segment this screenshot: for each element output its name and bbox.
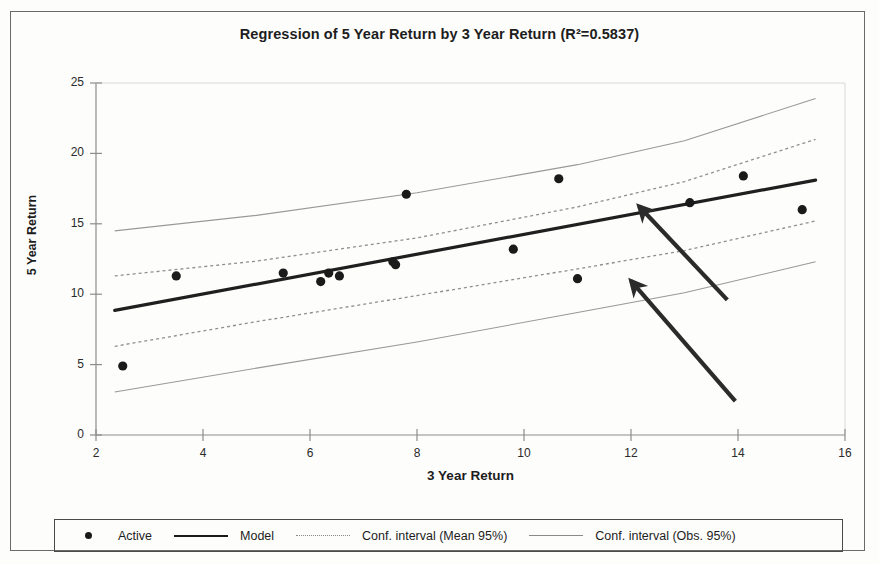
annotation-arrows [631,206,735,401]
x-tick-label-2: 2 [81,446,111,460]
data-point [324,268,333,277]
data-point [739,171,748,180]
x-tick-label-16: 16 [830,446,860,460]
solid-thin-line-icon [529,535,583,536]
legend-item-model[interactable]: Model [152,529,274,543]
y-tick-label-20: 20 [58,145,84,159]
data-point [118,361,127,370]
data-point [554,174,563,183]
chart-page: Regression of 5 Year Return by 3 Year Re… [0,0,879,564]
data-point [573,274,582,283]
y-tick-label-15: 15 [58,216,84,230]
legend-label-conf-obs: Conf. interval (Obs. 95%) [595,529,735,543]
arrow-to-mean-upper-band [639,206,727,300]
y-tick-label-5: 5 [58,357,84,371]
data-point [279,268,288,277]
axes [90,83,845,441]
x-tick-label-12: 12 [616,446,646,460]
arrow-to-obs-lower-band [631,281,735,401]
legend-label-model: Model [240,529,274,543]
data-point [335,271,344,280]
data-point [391,260,400,269]
x-tick-label-14: 14 [723,446,753,460]
data-point [172,271,181,280]
x-axis-title: 3 Year Return [96,468,845,483]
legend-label-active: Active [118,529,152,543]
y-tick-label-25: 25 [58,75,84,89]
x-tick-label-6: 6 [295,446,325,460]
data-point [509,245,518,254]
model-regression-line [115,180,816,310]
dot-marker-icon [85,532,92,539]
chart-legend: Active Model Conf. interval (Mean 95%) C… [54,519,843,552]
legend-item-conf-mean[interactable]: Conf. interval (Mean 95%) [274,529,507,543]
dotted-line-icon [296,535,350,536]
legend-item-conf-obs[interactable]: Conf. interval (Obs. 95%) [507,529,735,543]
obs-ci-upper-line [115,98,816,230]
model-line [115,180,816,310]
y-axis-title: 5 Year Return [25,175,39,295]
data-point [316,277,325,286]
data-point [685,198,694,207]
solid-thick-line-icon [174,535,228,537]
y-tick-label-0: 0 [58,427,84,441]
y-tick-label-10: 10 [58,286,84,300]
x-tick-label-8: 8 [402,446,432,460]
x-tick-label-10: 10 [509,446,539,460]
legend-label-conf-mean: Conf. interval (Mean 95%) [362,529,507,543]
data-point [798,205,807,214]
x-tick-label-4: 4 [188,446,218,460]
legend-item-active[interactable]: Active [81,529,152,543]
mean-confidence-band [115,139,816,346]
mean-ci-upper-line [115,139,816,276]
data-point [402,190,411,199]
